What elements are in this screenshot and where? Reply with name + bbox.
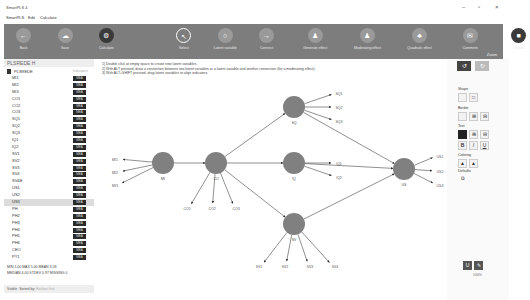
indicator-row[interactable]: SV2MEA [4,158,94,165]
latent-label: US [402,183,408,187]
maximize-button[interactable]: ▫ [478,4,480,10]
undo-button[interactable]: ↺ [457,61,471,71]
indicator-box[interactable]: SV4 [332,265,339,269]
indicator-row[interactable]: US3MEA [4,199,94,206]
latent-variable-us[interactable] [393,158,415,180]
indicator-box[interactable]: CO1 [183,207,190,211]
indicator-box[interactable]: MI1 [112,158,118,162]
text-color-button[interactable] [458,130,467,139]
indicator-row[interactable]: US1MEA [4,185,94,192]
indicator-box[interactable]: SQ3 [335,120,342,124]
toolbar-connect-button[interactable]: →Connect [249,26,285,56]
indicator-box[interactable]: IQ1 [336,162,342,166]
indicator-row[interactable]: MI2MEA [4,82,94,89]
sort-value[interactable]: Earliest first [36,287,54,291]
indicator-row[interactable]: MI1MEA [4,75,94,82]
shape-label: Shape [458,87,468,91]
project-row[interactable]: PLSREDEIndicators [4,67,94,75]
minimize-button[interactable]: – [462,4,465,10]
toolbar-select-button[interactable]: ↖Select [166,26,202,56]
pen-button[interactable]: ✎ [474,261,483,270]
latent-variable-iq[interactable] [283,152,305,174]
border-none-button[interactable] [458,112,467,121]
border-grid-button[interactable]: ⊞ [469,112,478,121]
underline-button[interactable]: U [480,141,489,150]
indicator-row[interactable]: CO1MEA [4,96,94,103]
file-icon [7,69,11,74]
indicator-box[interactable]: CO3 [232,207,239,211]
toolbar-save-button[interactable]: ☁Save [47,26,83,56]
indicator-box[interactable]: SV2 [282,265,289,269]
shape-rect-button[interactable]: □ [469,93,478,102]
indicator-row[interactable]: IQ2MEA [4,144,94,151]
indicator-row[interactable]: CO2MEA [4,103,94,110]
menu-edit[interactable]: Edit [28,15,35,20]
italic-button[interactable]: I [469,141,478,150]
indicator-row[interactable]: SV4MEA [4,171,94,178]
menu-smartpls[interactable]: SmartPLS [6,15,24,20]
indicator-box[interactable]: US3 [437,184,444,188]
indicator-box[interactable]: SV1 [256,265,263,269]
indicator-box[interactable]: CO2 [208,207,215,211]
indicator-name: PH4 [12,227,20,232]
toolbar-generate-effect-button[interactable]: ♟Generate effect [297,26,333,56]
indicator-row[interactable]: PH5MEA [4,233,94,240]
indicator-row[interactable]: PH2MEA [4,213,94,220]
indicator-row[interactable]: PHMEA [4,206,94,213]
latent-variable-mi[interactable] [152,152,174,174]
indicator-row[interactable]: MI3MEA [4,89,94,96]
close-button[interactable]: × [495,4,499,10]
indicator-row[interactable]: IQ1MEA [4,137,94,144]
indicator-box[interactable]: US2 [437,170,444,174]
type-badge: MEA [73,152,86,157]
indicator-row[interactable]: SV3MEA [4,165,94,172]
model-canvas[interactable]: 1) Double click at empty space to create… [95,59,447,300]
latent-variable-co[interactable] [205,152,227,174]
toolbar-calculate-button[interactable]: ⚙Calculate [88,26,124,56]
toolbar-moderating-effect-button[interactable]: ♟Moderating effect [349,26,385,56]
line-color-button[interactable]: ▲ [469,159,478,168]
indicator-box[interactable]: IQ2 [336,176,342,180]
toolbar-delete-button[interactable]: ■Delete [501,26,530,56]
defaults-icon[interactable]: ⧉ [458,175,467,184]
latent-variable-sv[interactable] [283,213,305,235]
indicator-row[interactable]: SV1MEA [4,151,94,158]
indicator-row[interactable]: SQ1MEA [4,116,94,123]
latent-variable-sq[interactable] [283,96,305,118]
indicator-row[interactable]: PH3MEA [4,220,94,227]
indicator-row[interactable]: PY1MEA [4,254,94,261]
indicator-row[interactable]: SV&EMEA [4,178,94,185]
type-badge: MEA [73,200,86,205]
indicator-box[interactable]: SQ2 [335,106,342,110]
toolbar-back-button[interactable]: ←Back [6,26,42,56]
indicator-row[interactable]: PH4MEA [4,227,94,234]
border-style-button[interactable]: ⊟ [480,112,489,121]
indicator-box[interactable]: MI3 [112,184,118,188]
toolbar-latent-variable-button[interactable]: ○Latent variable [207,26,243,56]
redo-button[interactable]: ↻ [475,61,489,71]
indicator-row[interactable]: US2MEA [4,192,94,199]
indicator-box[interactable]: SV3 [307,265,314,269]
indicator-row[interactable]: PH6MEA [4,240,94,247]
text-align-button[interactable]: ⊞ [469,130,478,139]
type-badge: MEA [73,159,86,164]
toolbar-ribbon: Zoom ←Back☁Save⚙Calculate↖Select○Latent … [4,24,503,59]
bold-button[interactable]: B [458,141,467,150]
fill-color-button[interactable]: ▲ [458,159,467,168]
toolbar-comment-button[interactable]: ✉Comment [452,26,488,56]
indicator-row[interactable]: SQ2MEA [4,123,94,130]
magnet-button[interactable]: U [463,261,472,270]
indicator-box[interactable]: US1 [437,155,444,159]
indicator-row[interactable]: CEOMEA [4,247,94,254]
text-position-button[interactable]: ⊟ [480,130,489,139]
sort-bar[interactable]: Visible Sorted by: Earliest first [4,285,94,293]
shape-circle-button[interactable] [458,93,467,102]
latent-label: CO [213,177,219,181]
indicator-row[interactable]: CO3MEA [4,109,94,116]
indicator-row[interactable]: SQ3MEA [4,130,94,137]
menu-calculate[interactable]: Calculate [40,15,57,20]
toolbar-label: Connect [249,46,285,50]
indicator-box[interactable]: MI2 [112,171,118,175]
toolbar-quadratic-effect-button[interactable]: ♣Quadratic effect [402,26,438,56]
indicator-box[interactable]: SQ1 [335,92,342,96]
